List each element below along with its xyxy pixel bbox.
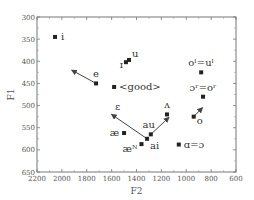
y-tick-label: 500 bbox=[22, 102, 35, 110]
x-tick-label: 800 bbox=[204, 175, 217, 183]
data-point bbox=[94, 81, 98, 85]
y-tick-label: 600 bbox=[22, 146, 35, 154]
y-tick-label: 650 bbox=[22, 169, 35, 177]
point-label: æ bbox=[110, 127, 119, 138]
y-axis-label: F1 bbox=[6, 89, 16, 101]
point-label: ɑ=ɔ bbox=[184, 139, 205, 150]
data-point bbox=[201, 95, 205, 99]
point-label: i bbox=[61, 31, 64, 42]
data-point bbox=[122, 131, 126, 135]
data-point bbox=[192, 115, 196, 119]
point-label: au bbox=[143, 119, 156, 130]
y-tick-label: 400 bbox=[22, 58, 35, 66]
point-label: ɪ bbox=[120, 59, 123, 70]
data-point bbox=[199, 70, 203, 74]
data-point bbox=[127, 58, 131, 62]
data-point bbox=[165, 112, 169, 116]
data-point bbox=[145, 137, 149, 141]
x-tick-label: 1800 bbox=[78, 175, 96, 183]
vowel-formant-chart: 2200200018001600140012001000800600300350… bbox=[0, 0, 254, 200]
data-point bbox=[139, 142, 143, 146]
point-label: ai bbox=[150, 140, 159, 151]
x-tick-label: 1400 bbox=[128, 175, 146, 183]
point-label: oˡ=uˡ bbox=[188, 57, 214, 68]
x-tick-label: 1200 bbox=[152, 175, 170, 183]
y-tick-label: 450 bbox=[22, 80, 35, 88]
x-tick-label: 600 bbox=[229, 175, 242, 183]
point-label: ʌ bbox=[163, 99, 170, 110]
data-point bbox=[177, 143, 181, 147]
point-label: ɛ bbox=[115, 101, 120, 112]
x-axis-label: F2 bbox=[131, 186, 143, 196]
y-tick-label: 300 bbox=[22, 14, 35, 22]
point-label: <good> bbox=[119, 81, 161, 92]
point-label: o bbox=[197, 115, 203, 126]
point-label: e bbox=[93, 68, 99, 79]
y-tick-label: 350 bbox=[22, 36, 35, 44]
data-point bbox=[112, 85, 116, 89]
x-tick-label: 1000 bbox=[177, 175, 195, 183]
y-tick-label: 550 bbox=[22, 124, 35, 132]
data-point bbox=[149, 132, 153, 136]
x-tick-label: 2000 bbox=[53, 175, 71, 183]
data-point bbox=[53, 35, 57, 39]
point-label: ɔʳ=oʳ bbox=[190, 82, 217, 93]
x-tick-label: 1600 bbox=[103, 175, 121, 183]
point-label: u bbox=[132, 48, 139, 59]
point-label: æᴺ bbox=[123, 143, 138, 154]
